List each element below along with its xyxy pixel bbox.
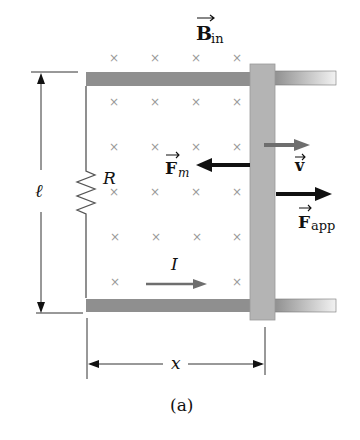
svg-text:×: ×: [192, 230, 202, 244]
figure-caption: (a): [170, 395, 193, 415]
svg-text:×: ×: [109, 95, 119, 109]
moving-bar-diagram: ×××× ×××× ×××× ×××× ×××× ××: [0, 0, 360, 440]
svg-text:×: ×: [232, 185, 242, 199]
magnetic-force-label: F m: [165, 152, 189, 180]
svg-text:F: F: [165, 158, 177, 178]
svg-text:×: ×: [110, 230, 120, 244]
top-rail-extension: [274, 71, 336, 85]
svg-text:×: ×: [232, 51, 242, 65]
distance-label: x: [171, 353, 181, 373]
svg-text:m: m: [178, 166, 189, 180]
length-label: ℓ: [35, 180, 43, 201]
svg-text:×: ×: [191, 51, 201, 65]
applied-force-label: F app: [298, 205, 335, 233]
svg-text:×: ×: [232, 95, 242, 109]
resistor-label: R: [102, 168, 116, 188]
svg-text:×: ×: [232, 140, 242, 154]
svg-text:B: B: [196, 22, 212, 44]
svg-text:×: ×: [150, 51, 160, 65]
field-label: B in: [196, 15, 224, 46]
bottom-rail-extension: [274, 299, 336, 312]
velocity-label: v: [294, 154, 305, 175]
bottom-rail: [86, 299, 252, 312]
svg-text:app: app: [311, 218, 335, 233]
applied-force-arrow: [276, 187, 332, 201]
svg-text:×: ×: [232, 275, 242, 289]
svg-text:×: ×: [110, 275, 120, 289]
svg-text:×: ×: [150, 95, 160, 109]
current-arrow: [146, 279, 207, 289]
magnetic-force-arrow: [196, 158, 250, 172]
svg-text:v: v: [294, 156, 305, 175]
svg-text:F: F: [298, 212, 310, 232]
top-rail: [86, 72, 252, 86]
svg-text:×: ×: [191, 140, 201, 154]
diagram-canvas: ×××× ×××× ×××× ×××× ×××× ××: [0, 0, 360, 440]
svg-text:×: ×: [150, 185, 160, 199]
svg-text:×: ×: [191, 185, 201, 199]
svg-text:×: ×: [191, 95, 201, 109]
svg-text:×: ×: [151, 230, 161, 244]
left-wire: [77, 86, 95, 298]
svg-text:×: ×: [232, 230, 242, 244]
sliding-bar: [250, 64, 275, 320]
current-label: I: [170, 254, 178, 274]
svg-text:×: ×: [109, 51, 119, 65]
svg-text:×: ×: [109, 140, 119, 154]
svg-text:×: ×: [150, 140, 160, 154]
svg-text:in: in: [211, 31, 224, 46]
